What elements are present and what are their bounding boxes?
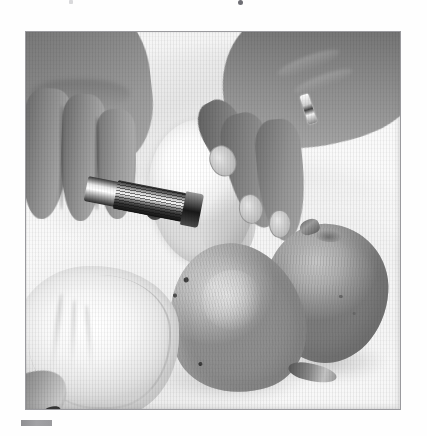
top-text-fragment (69, 0, 73, 4)
scanned-page (0, 0, 427, 436)
photograph (26, 32, 400, 409)
caption-marker-bar (21, 420, 52, 426)
top-text-fragment (238, 0, 243, 5)
cloth-weave-texture (26, 32, 400, 409)
photograph-frame (25, 31, 401, 410)
